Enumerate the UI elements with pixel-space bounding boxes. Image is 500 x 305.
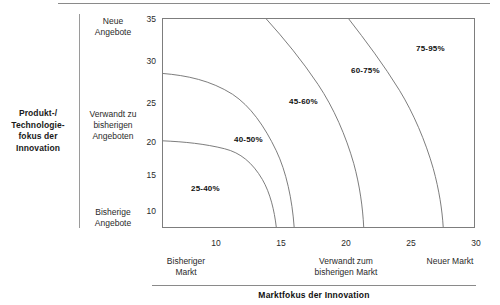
x-category-label-bisheriger-markt: Bisheriger Markt	[150, 256, 222, 278]
y-tick-label-30: 30	[134, 56, 156, 66]
band-label-25-40: 25-40%	[191, 184, 220, 193]
y-axis-title-line-2: Technologie-	[0, 120, 76, 132]
x-tick-label-25: 25	[396, 238, 426, 248]
y-axis-title-line-1: Produkt-/	[0, 108, 76, 120]
y-axis-title-line-4: Innovation	[0, 143, 76, 155]
band-label-75-95: 75-95%	[416, 44, 445, 53]
x-category-label-verwandt-markt: Verwandt zum bisherigen Markt	[298, 256, 394, 278]
bottom-divider-rule	[152, 285, 476, 286]
band-label-45-60: 45-60%	[289, 97, 318, 106]
y-tick-label-10: 10	[134, 206, 156, 216]
x-category-neuer-line-1: Neuer Markt	[410, 256, 490, 267]
y-category-verwandt-line-1: Verwandt zu	[80, 109, 146, 120]
x-tick-label-20: 20	[331, 238, 361, 248]
x-category-bisheriger-line-1: Bisheriger	[150, 256, 222, 267]
y-category-bisherige-line-2: Angebote	[80, 218, 146, 229]
y-axis-title-line-3: fokus der	[0, 131, 76, 143]
y-tick-label-25: 25	[134, 98, 156, 108]
x-category-label-neuer-markt: Neuer Markt	[410, 256, 490, 267]
y-axis-title: Produkt-/ Technologie- fokus der Innovat…	[0, 108, 76, 154]
y-tick-label-20: 20	[134, 137, 156, 147]
x-tick-label-30: 30	[461, 238, 491, 248]
x-category-bisheriger-line-2: Markt	[150, 267, 222, 278]
x-category-verwandt-line-2: bisherigen Markt	[298, 267, 394, 278]
curve-boundary-45-60	[266, 19, 363, 227]
x-tick-label-10: 10	[201, 238, 231, 248]
band-label-40-50: 40-50%	[234, 135, 263, 144]
top-divider-rule	[58, 3, 490, 4]
y-tick-label-15: 15	[134, 170, 156, 180]
x-category-verwandt-line-1: Verwandt zum	[298, 256, 394, 267]
chart-figure: Produkt-/ Technologie- fokus der Innovat…	[0, 0, 500, 305]
x-axis-title: Marktfokus der Innovation	[152, 290, 476, 300]
y-category-neue-line-2: Angebote	[80, 27, 146, 38]
x-tick-label-15: 15	[266, 238, 296, 248]
y-category-verwandt-line-2: bisherigen	[80, 120, 146, 131]
y-tick-label-35: 35	[134, 14, 156, 24]
band-label-60-75: 60-75%	[351, 66, 380, 75]
